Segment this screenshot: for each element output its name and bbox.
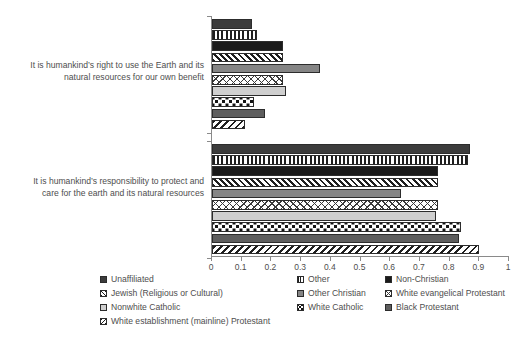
legend-item-label: Jewish (Religious or Cultural) bbox=[111, 288, 223, 298]
legend-item-label: White evangelical Protestant bbox=[396, 288, 505, 298]
bar bbox=[212, 166, 438, 176]
legend-item[interactable]: Other bbox=[297, 274, 330, 284]
category-label-line: natural resources for our own benefit bbox=[12, 72, 204, 84]
bar bbox=[212, 245, 479, 255]
legend-swatch-icon bbox=[297, 276, 304, 283]
legend-swatch-icon bbox=[297, 304, 304, 311]
x-axis-tick-label: 0.1 bbox=[226, 262, 256, 272]
x-axis-tick-label: 1 bbox=[493, 262, 523, 272]
bar bbox=[212, 64, 320, 74]
bar bbox=[212, 144, 470, 154]
legend-item[interactable]: Nonwhite Catholic bbox=[100, 302, 180, 312]
bar bbox=[212, 19, 252, 29]
bar bbox=[212, 155, 468, 165]
legend-item[interactable]: Black Protestant bbox=[385, 302, 459, 312]
x-axis-tick bbox=[449, 257, 450, 261]
legend-item[interactable]: White establishment (mainline) Protestan… bbox=[100, 316, 270, 326]
x-axis-tick-label: 0.3 bbox=[285, 262, 315, 272]
bar bbox=[212, 30, 257, 40]
x-axis-tick-label: 0.9 bbox=[463, 262, 493, 272]
legend-swatch-icon bbox=[100, 318, 107, 325]
x-axis-tick bbox=[508, 257, 509, 261]
legend-item-label: Black Protestant bbox=[396, 302, 459, 312]
x-axis-tick-label: 0.5 bbox=[345, 262, 375, 272]
legend-item-label: Other Christian bbox=[308, 288, 366, 298]
bar bbox=[212, 41, 283, 51]
bar bbox=[212, 75, 283, 85]
category-label-line: care for the earth and its natural resou… bbox=[12, 188, 204, 200]
legend-item[interactable]: Non-Christian bbox=[385, 274, 449, 284]
legend-swatch-icon bbox=[385, 276, 392, 283]
legend-item[interactable]: White Catholic bbox=[297, 302, 363, 312]
legend-item-label: Unaffiliated bbox=[111, 274, 154, 284]
y-axis-tick bbox=[207, 133, 211, 134]
legend-swatch-icon bbox=[100, 276, 107, 283]
x-axis-tick-label: 0.6 bbox=[374, 262, 404, 272]
x-axis-tick bbox=[478, 257, 479, 261]
bar bbox=[212, 86, 286, 96]
bar bbox=[212, 178, 438, 188]
legend-swatch-icon bbox=[100, 304, 107, 311]
legend-swatch-icon bbox=[100, 290, 107, 297]
bar bbox=[212, 97, 254, 107]
y-axis-tick bbox=[207, 16, 211, 17]
category-label-line: It is humankind’s right to use the Earth… bbox=[12, 60, 204, 72]
x-axis-tick-label: 0.7 bbox=[404, 262, 434, 272]
x-axis-tick bbox=[389, 257, 390, 261]
legend-item-label: White establishment (mainline) Protestan… bbox=[111, 316, 270, 326]
legend-swatch-icon bbox=[297, 290, 304, 297]
x-axis-tick bbox=[211, 257, 212, 261]
bar bbox=[212, 211, 436, 221]
bar-chart: It is humankind’s right to use the Earth… bbox=[0, 0, 527, 349]
category-label-line: It is humankind’s responsibility to prot… bbox=[12, 176, 204, 188]
x-axis-tick bbox=[360, 257, 361, 261]
legend-swatch-icon bbox=[385, 304, 392, 311]
x-axis-tick bbox=[330, 257, 331, 261]
category-label-responsibility-to-protect: It is humankind’s responsibility to prot… bbox=[12, 176, 204, 199]
x-axis-tick-label: 0.4 bbox=[315, 262, 345, 272]
bar bbox=[212, 200, 438, 210]
x-axis-tick bbox=[300, 257, 301, 261]
x-axis-tick-label: 0.8 bbox=[434, 262, 464, 272]
y-axis-tick bbox=[207, 258, 211, 259]
bar bbox=[212, 222, 461, 232]
bar bbox=[212, 120, 245, 130]
plot-area: 00.10.20.30.40.50.60.70.80.91 bbox=[211, 16, 508, 256]
legend-item-label: Nonwhite Catholic bbox=[111, 302, 180, 312]
legend-item[interactable]: White evangelical Protestant bbox=[385, 288, 505, 298]
bar bbox=[212, 109, 265, 119]
x-axis-tick-label: 0.2 bbox=[255, 262, 285, 272]
x-axis-tick bbox=[241, 257, 242, 261]
bar bbox=[212, 189, 401, 199]
category-label-right-to-use: It is humankind’s right to use the Earth… bbox=[12, 60, 204, 83]
legend-item-label: Non-Christian bbox=[396, 274, 449, 284]
legend-swatch-icon bbox=[385, 290, 392, 297]
legend-item-label: White Catholic bbox=[308, 302, 363, 312]
x-axis-tick bbox=[419, 257, 420, 261]
x-axis-tick bbox=[270, 257, 271, 261]
bar bbox=[212, 234, 459, 244]
legend-item[interactable]: Other Christian bbox=[297, 288, 366, 298]
bar bbox=[212, 53, 283, 63]
legend-item[interactable]: Unaffiliated bbox=[100, 274, 154, 284]
y-axis-tick bbox=[207, 141, 211, 142]
x-axis-tick-label: 0 bbox=[196, 262, 226, 272]
legend-item-label: Other bbox=[308, 274, 330, 284]
legend-item[interactable]: Jewish (Religious or Cultural) bbox=[100, 288, 223, 298]
legend: UnaffiliatedOtherNon-ChristianJewish (Re… bbox=[0, 272, 527, 332]
